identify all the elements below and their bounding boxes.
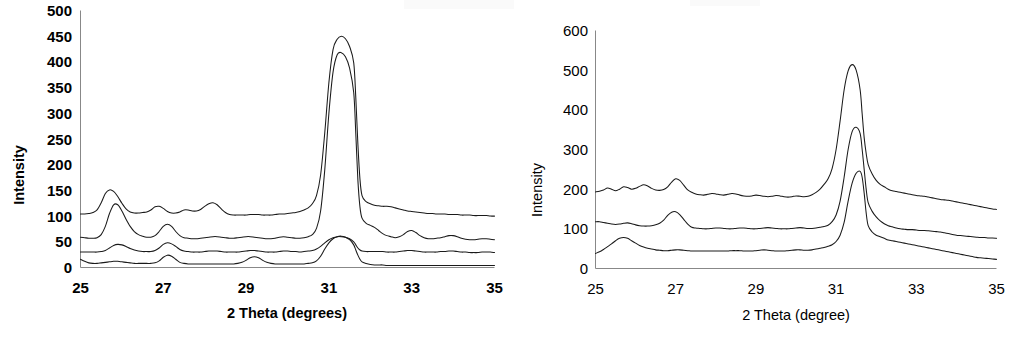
x-tick-label: 35 [988, 280, 1005, 297]
y-tick-label: 100 [563, 220, 588, 237]
y-tick-label: 100 [47, 208, 72, 225]
x-tick-label: 29 [238, 279, 255, 296]
y-axis-tick-labels: 0100200300400500600 [563, 22, 588, 277]
xrd-plot-right: 0100200300400500600 252729313335 Intensi… [510, 0, 1019, 348]
x-axis-tick-labels: 252729313335 [72, 279, 503, 296]
y-tick-label: 450 [47, 28, 72, 45]
xrd-figure: 050100150200250300350400450500 252729313… [0, 0, 1019, 348]
y-tick-label: 200 [563, 181, 588, 198]
xrd-trace [596, 65, 997, 210]
plot-axes [81, 11, 495, 268]
y-axis-tick-labels: 050100150200250300350400450500 [47, 2, 72, 276]
x-axis-tick-labels: 252729313335 [587, 280, 1005, 297]
x-axis-title: 2 Theta (degree) [742, 307, 850, 323]
x-tick-label: 33 [908, 280, 925, 297]
y-tick-label: 0 [64, 259, 72, 276]
data-traces [596, 65, 997, 260]
y-tick-label: 200 [47, 156, 72, 173]
x-tick-label: 27 [155, 279, 172, 296]
y-tick-label: 500 [563, 62, 588, 79]
xrd-trace [81, 36, 495, 216]
xrd-panel-right: 0100200300400500600 252729313335 Intensi… [510, 0, 1019, 348]
y-tick-label: 350 [47, 79, 72, 96]
y-tick-label: 300 [47, 105, 72, 122]
y-tick-label: 400 [563, 101, 588, 118]
y-axis-title: Intensity [529, 162, 545, 217]
y-tick-label: 50 [55, 233, 72, 250]
y-tick-label: 150 [47, 182, 72, 199]
x-tick-label: 25 [587, 280, 604, 297]
x-tick-label: 27 [667, 280, 684, 297]
y-tick-label: 500 [47, 2, 72, 19]
y-tick-label: 400 [47, 53, 72, 70]
y-tick-label: 600 [563, 22, 588, 39]
x-tick-label: 35 [486, 279, 503, 296]
x-tick-label: 29 [748, 280, 765, 297]
x-tick-label: 25 [72, 279, 89, 296]
y-tick-label: 300 [563, 141, 588, 158]
xrd-plot-left: 050100150200250300350400450500 252729313… [0, 0, 510, 348]
data-traces [81, 36, 495, 265]
x-tick-label: 31 [321, 279, 338, 296]
xrd-trace [596, 171, 997, 259]
y-tick-label: 0 [580, 260, 588, 277]
y-tick-label: 250 [47, 131, 72, 148]
xrd-trace [596, 127, 997, 238]
x-tick-label: 33 [403, 279, 420, 296]
y-axis-title: Intensity [11, 145, 27, 205]
x-tick-label: 31 [828, 280, 845, 297]
xrd-panel-left: 050100150200250300350400450500 252729313… [0, 0, 510, 348]
plot-axes [596, 31, 997, 269]
xrd-trace [81, 52, 495, 240]
x-axis-title: 2 Theta (degrees) [227, 305, 347, 321]
